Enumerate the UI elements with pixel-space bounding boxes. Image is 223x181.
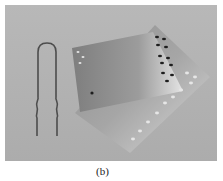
figure-caption: (b) [0, 165, 205, 177]
photo-illustration [5, 5, 217, 161]
figure-photo [5, 5, 217, 161]
